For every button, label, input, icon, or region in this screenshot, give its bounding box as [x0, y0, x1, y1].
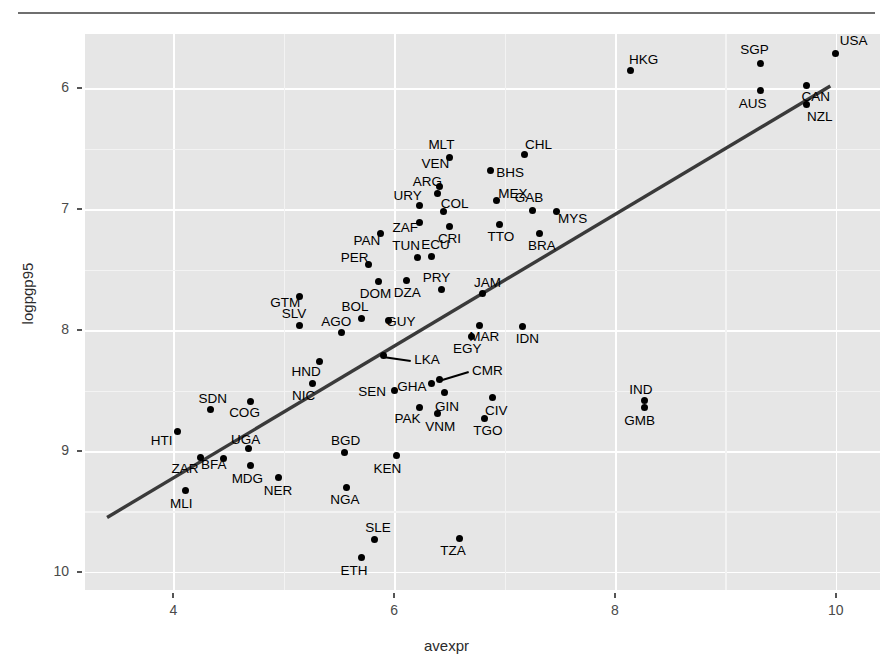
- data-point[interactable]: [371, 536, 378, 543]
- y-tick-label: 10: [41, 563, 69, 579]
- data-point-label: VNM: [425, 420, 455, 434]
- data-point-label: AGO: [321, 315, 351, 329]
- plot-panel: USASGPHKGCANAUSNZLCHLMLTBHSVENARGMEXURYG…: [85, 34, 880, 590]
- data-point-label: SGP: [740, 43, 769, 57]
- y-tick-mark: [77, 208, 82, 210]
- data-point[interactable]: [358, 554, 365, 561]
- y-tick-label: 6: [41, 79, 69, 95]
- data-point[interactable]: [309, 380, 316, 387]
- data-point[interactable]: [641, 397, 648, 404]
- gridline-vertical: [615, 34, 617, 590]
- data-point[interactable]: [247, 462, 254, 469]
- data-point[interactable]: [489, 394, 496, 401]
- data-point-label: SLV: [282, 307, 307, 321]
- data-point[interactable]: [832, 50, 839, 57]
- data-point[interactable]: [519, 323, 526, 330]
- data-point[interactable]: [393, 452, 400, 459]
- data-point[interactable]: [476, 322, 483, 329]
- data-point[interactable]: [428, 253, 435, 260]
- data-point-label: ZAF: [393, 221, 419, 235]
- figure-root: logpgp95 avexpr 109876 46810 USASGPHKGCA…: [0, 0, 893, 671]
- x-tick-label: 4: [158, 602, 188, 618]
- data-point-label: MLI: [170, 497, 193, 511]
- gridline-horizontal: [85, 572, 880, 574]
- gridline-horizontal: [85, 209, 880, 211]
- data-point[interactable]: [403, 277, 410, 284]
- data-point[interactable]: [481, 415, 488, 422]
- gridline-horizontal: [85, 451, 880, 453]
- data-point[interactable]: [487, 167, 494, 174]
- data-point[interactable]: [247, 398, 254, 405]
- data-point[interactable]: [416, 202, 423, 209]
- data-point-label: TGO: [473, 424, 502, 438]
- data-point-label: GAB: [515, 191, 544, 205]
- data-point-label: URY: [394, 189, 422, 203]
- data-point-label: GHA: [397, 380, 426, 394]
- data-point[interactable]: [456, 535, 463, 542]
- data-point[interactable]: [446, 223, 453, 230]
- data-point[interactable]: [275, 474, 282, 481]
- data-point[interactable]: [803, 101, 810, 108]
- data-point[interactable]: [641, 404, 648, 411]
- data-point[interactable]: [479, 290, 486, 297]
- data-point[interactable]: [341, 449, 348, 456]
- y-tick-mark: [77, 571, 82, 573]
- data-point-label: GUY: [386, 315, 415, 329]
- data-point[interactable]: [174, 428, 181, 435]
- data-point[interactable]: [338, 329, 345, 336]
- data-point[interactable]: [627, 67, 634, 74]
- data-point-label: BHS: [496, 166, 524, 180]
- data-point-label: NIC: [292, 389, 315, 403]
- data-point[interactable]: [414, 254, 421, 261]
- data-point-label: BOL: [342, 300, 369, 314]
- x-tick-label: 10: [821, 602, 851, 618]
- data-point-label: SDN: [198, 392, 227, 406]
- gridline-vertical: [836, 34, 838, 590]
- data-point[interactable]: [529, 207, 536, 214]
- data-point[interactable]: [468, 333, 475, 340]
- data-point[interactable]: [182, 487, 189, 494]
- data-point[interactable]: [375, 278, 382, 285]
- data-point-label: LKA: [414, 353, 440, 367]
- data-point-label: TTO: [488, 230, 515, 244]
- data-point-label: CIV: [485, 404, 508, 418]
- data-point-label: GMB: [624, 414, 655, 428]
- data-point[interactable]: [757, 87, 764, 94]
- data-point[interactable]: [496, 221, 503, 228]
- data-point-label: NER: [264, 484, 293, 498]
- data-point[interactable]: [536, 230, 543, 237]
- data-point[interactable]: [441, 389, 448, 396]
- data-point[interactable]: [428, 380, 435, 387]
- data-point-label: EGY: [453, 342, 482, 356]
- data-point[interactable]: [296, 322, 303, 329]
- data-point[interactable]: [434, 410, 441, 417]
- x-tick-mark: [172, 593, 174, 598]
- data-point-label: MYS: [558, 212, 587, 226]
- data-point-label: ARG: [413, 175, 442, 189]
- data-point-label: HKG: [629, 53, 658, 67]
- data-point[interactable]: [358, 315, 365, 322]
- data-point[interactable]: [391, 387, 398, 394]
- data-point-label: BRA: [528, 239, 556, 253]
- data-point-label: TUN: [392, 239, 420, 253]
- data-point[interactable]: [434, 190, 441, 197]
- data-point-label: ECU: [421, 238, 450, 252]
- data-point[interactable]: [521, 151, 528, 158]
- data-point-label: KEN: [373, 462, 401, 476]
- data-point-label: NZL: [807, 110, 833, 124]
- data-point[interactable]: [207, 406, 214, 413]
- regression-line: [85, 34, 880, 590]
- y-tick-mark: [77, 329, 82, 331]
- x-tick-mark: [614, 593, 616, 598]
- data-point[interactable]: [438, 286, 445, 293]
- data-point-label: HTI: [151, 434, 173, 448]
- x-axis-label: avexpr: [0, 637, 893, 654]
- data-point-label: HND: [292, 365, 321, 379]
- gridline-horizontal: [85, 270, 880, 271]
- gridline-vertical: [725, 34, 726, 590]
- data-point-label: TZA: [440, 544, 466, 558]
- data-point[interactable]: [416, 404, 423, 411]
- data-point[interactable]: [343, 484, 350, 491]
- data-point[interactable]: [757, 60, 764, 67]
- data-point-label: IDN: [516, 332, 539, 346]
